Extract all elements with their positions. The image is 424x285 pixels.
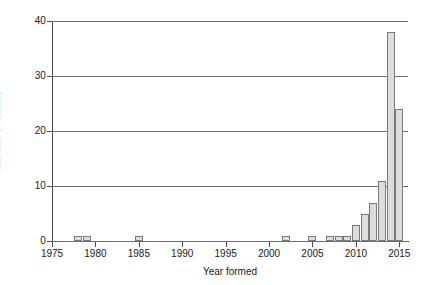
bar-series <box>52 21 408 241</box>
chart-container: Number of entities 010203040 19751980198… <box>0 0 424 285</box>
x-tick-mark-2005 <box>312 242 313 247</box>
bar-2013 <box>378 181 386 242</box>
bar-1985 <box>135 236 143 242</box>
x-tick-mark-2015 <box>399 242 400 247</box>
x-axis-title: Year formed <box>203 266 257 277</box>
bar-1978 <box>74 236 82 242</box>
bar-2008 <box>335 236 343 242</box>
bar-1979 <box>83 236 91 242</box>
x-axis-tick-labels: 197519801985199019952000200520102015 <box>52 242 409 266</box>
y-axis-tick-labels: 010203040 <box>0 21 46 242</box>
x-tick-label-1975: 1975 <box>41 248 63 259</box>
x-tick-label-1995: 1995 <box>215 248 237 259</box>
bar-2009 <box>343 236 351 242</box>
x-tick-label-2000: 2000 <box>258 248 280 259</box>
x-tick-mark-1980 <box>95 242 96 247</box>
x-tick-label-1980: 1980 <box>84 248 106 259</box>
x-tick-mark-2010 <box>356 242 357 247</box>
bar-2014 <box>387 32 395 241</box>
x-tick-label-2005: 2005 <box>301 248 323 259</box>
x-tick-mark-1995 <box>226 242 227 247</box>
bar-2002 <box>282 236 290 242</box>
x-tick-mark-1975 <box>52 242 53 247</box>
bar-2007 <box>326 236 334 242</box>
bar-2011 <box>361 214 369 242</box>
bar-2012 <box>369 203 377 242</box>
bar-2010 <box>352 225 360 242</box>
y-tick-label-40: 40 <box>35 16 46 26</box>
x-tick-label-1985: 1985 <box>128 248 150 259</box>
x-tick-mark-1990 <box>182 242 183 247</box>
y-tick-label-10: 10 <box>35 181 46 191</box>
y-tick-label-0: 0 <box>40 236 46 246</box>
x-tick-mark-1985 <box>139 242 140 247</box>
x-tick-mark-2000 <box>269 242 270 247</box>
bar-2015 <box>395 109 403 241</box>
x-tick-label-2010: 2010 <box>345 248 367 259</box>
y-tick-label-30: 30 <box>35 71 46 81</box>
plot-area <box>52 21 408 241</box>
y-tick-label-20: 20 <box>35 126 46 136</box>
x-tick-label-1990: 1990 <box>171 248 193 259</box>
bar-2005 <box>308 236 316 242</box>
x-tick-label-2015: 2015 <box>388 248 410 259</box>
